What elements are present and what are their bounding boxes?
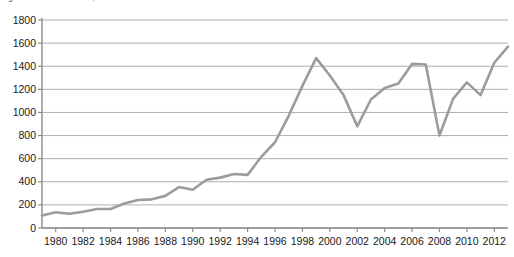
y-axis-tick-label: 1400	[2, 61, 36, 72]
x-axis-tick-label: 2008	[428, 236, 451, 247]
series-sp500-line	[42, 47, 508, 216]
x-axis-tick-label: 2004	[373, 236, 396, 247]
y-axis-tick-label: 800	[2, 130, 36, 141]
x-axis-tick-label: 1986	[126, 236, 149, 247]
y-axis-tick-label: 1000	[2, 107, 36, 118]
x-axis-tick-label: 1984	[99, 236, 122, 247]
line-chart-plot	[0, 0, 514, 257]
x-axis-tick-label: 2012	[483, 236, 506, 247]
y-axis-tick-label: 400	[2, 176, 36, 187]
x-axis-tick-label: 1996	[263, 236, 286, 247]
x-axis-tick-label: 1982	[71, 236, 94, 247]
x-axis-tick-label: 2002	[346, 236, 369, 247]
x-axis-tick-label: 1992	[208, 236, 231, 247]
x-axis-tick-label: 1990	[181, 236, 204, 247]
x-axis-tick-label: 1980	[44, 236, 67, 247]
x-axis-tick-label: 2006	[400, 236, 423, 247]
x-axis-tick-label: 2000	[318, 236, 341, 247]
x-axis-tick-label: 2010	[455, 236, 478, 247]
x-axis-tick-label: 1994	[236, 236, 259, 247]
figure-container: Fig 1.2 The S&P 500 index, 1980 to 2013 …	[0, 0, 514, 257]
y-axis-tick-label: 1600	[2, 38, 36, 49]
x-axis-tick-label: 1988	[154, 236, 177, 247]
y-axis-tick-label: 1800	[2, 15, 36, 26]
x-axis-labels: 1980198219841986198819901992199419961998…	[0, 232, 514, 252]
x-axis-tick-label: 1998	[291, 236, 314, 247]
data-series-line	[42, 47, 508, 216]
y-axis-labels: 180016001400120010008006004002000	[0, 0, 36, 257]
y-axis-tick-label: 200	[2, 199, 36, 210]
y-axis-tick-label: 1200	[2, 84, 36, 95]
y-axis-tick-label: 600	[2, 153, 36, 164]
